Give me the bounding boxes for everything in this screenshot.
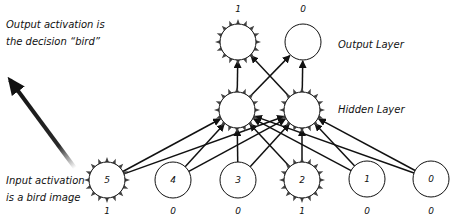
input-note-line-1: Input activation — [6, 172, 85, 189]
input-activation-0: 0 — [428, 206, 434, 216]
output-note-line-2: the decision “bird” — [6, 33, 105, 50]
svg-text:0: 0 — [428, 174, 434, 184]
input-node-4: 4 — [155, 162, 191, 198]
hidden-node — [214, 87, 260, 133]
input-node-2: 2 — [279, 157, 325, 203]
output-activation-0: 1 — [235, 4, 241, 14]
connection-arrow — [185, 124, 224, 167]
output-node — [285, 24, 321, 60]
svg-text:3: 3 — [235, 175, 241, 185]
svg-text:4: 4 — [170, 175, 176, 185]
input-activation-4: 0 — [170, 206, 176, 216]
hidden-layer-label: Hidden Layer — [338, 101, 405, 118]
input-activation-5: 1 — [104, 206, 110, 216]
input-node-0: 0 — [413, 161, 449, 197]
output-node — [215, 19, 261, 65]
input-node-5: 5 — [84, 157, 130, 203]
output-activation-1: 0 — [300, 4, 306, 14]
input-activation-note: Input activation is a bird image — [6, 172, 85, 206]
svg-text:5: 5 — [104, 175, 110, 185]
svg-text:2: 2 — [299, 175, 305, 185]
big-arrow-icon — [10, 80, 75, 168]
input-activation-2: 1 — [299, 206, 305, 216]
output-layer-label: Output Layer — [338, 36, 404, 53]
input-activation-3: 0 — [235, 206, 241, 216]
input-activation-1: 0 — [364, 206, 370, 216]
input-note-line-2: is a bird image — [6, 189, 85, 206]
input-node-3: 3 — [220, 162, 256, 198]
output-activation-note: Output activation is the decision “bird” — [6, 16, 105, 50]
connection-arrow — [255, 116, 414, 173]
svg-text:1: 1 — [364, 174, 370, 184]
input-node-1: 1 — [349, 161, 385, 197]
output-note-line-1: Output activation is — [6, 16, 105, 33]
hidden-node — [279, 87, 325, 133]
